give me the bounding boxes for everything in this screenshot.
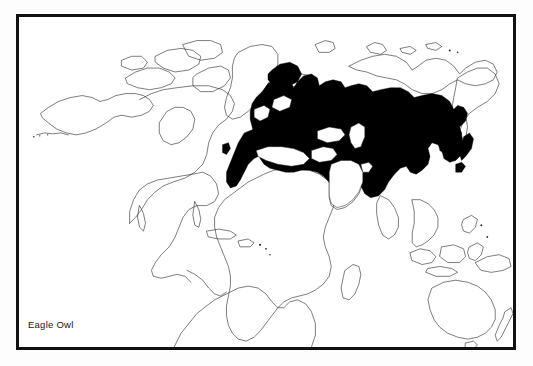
distribution-map-figure: Eagle Owl — [0, 0, 533, 366]
island-speck — [33, 136, 35, 138]
island-speck — [47, 134, 48, 135]
island-speck — [486, 236, 488, 238]
world-map-canvas — [19, 17, 513, 347]
island-speck — [480, 224, 482, 226]
island-speck — [259, 244, 261, 246]
map-background — [19, 17, 513, 347]
island-speck — [269, 254, 271, 256]
island-speck — [449, 49, 451, 51]
species-label: Eagle Owl — [28, 319, 74, 331]
island-speck — [39, 135, 40, 136]
island-speck — [457, 52, 459, 54]
map-frame-border — [16, 14, 516, 350]
island-speck — [265, 248, 267, 250]
